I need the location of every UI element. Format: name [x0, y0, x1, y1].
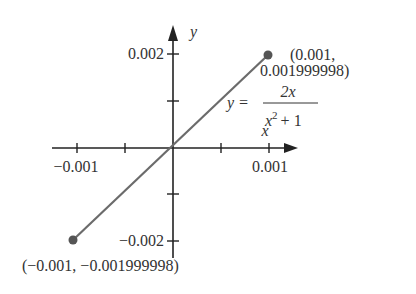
y-axis-arrow-icon	[168, 25, 178, 41]
x-axis-arrow-icon	[284, 143, 298, 153]
annotation-lhs: y =	[225, 94, 249, 112]
annotation-denominator: x2+ 1	[264, 109, 302, 129]
y-axis-label: y	[188, 23, 198, 41]
y-tick-label-pos: 0.002	[128, 45, 164, 62]
y-axis: 0.002 −0.002 y	[119, 23, 198, 258]
endpoint-upper	[264, 51, 273, 60]
function-graph: −0.001 0.001 x 0.002 −0.002 y (0.001, 0.…	[0, 0, 416, 294]
x-tick-label-pos: 0.001	[252, 158, 288, 175]
point-label-upper-line2: 0.001999998)	[260, 62, 349, 80]
endpoint-lower	[69, 236, 78, 245]
y-tick-label-neg: −0.002	[119, 232, 164, 249]
function-annotation: y = 2x x2+ 1	[225, 83, 318, 129]
x-axis: −0.001 0.001 x	[52, 122, 298, 175]
x-tick-label-neg: −0.001	[53, 158, 98, 175]
annotation-numerator: 2x	[280, 83, 295, 100]
point-label-lower: (−0.001, −0.001999998)	[22, 257, 179, 275]
